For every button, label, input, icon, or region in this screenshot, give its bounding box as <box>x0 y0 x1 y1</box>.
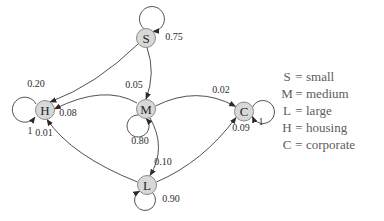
legend-item-medium: M = medium <box>281 86 348 101</box>
edge-L-to-H <box>47 120 138 183</box>
node-M-label: M <box>140 102 152 117</box>
legend-meaning-medium: medium <box>306 86 349 101</box>
figure-canvas: 0.75 0.05 0.20 0.80 0.08 0.02 0.10 0.90 … <box>0 0 384 221</box>
edge-S-to-M <box>146 48 151 100</box>
legend-equals-sign: = <box>295 137 302 152</box>
probability-S-to-M: 0.05 <box>125 79 143 90</box>
probability-S-to-H: 0.20 <box>27 78 45 89</box>
edge-M-to-C <box>156 96 236 107</box>
legend-item-housing: H = housing <box>282 120 347 135</box>
state-transition-diagram: 0.75 0.05 0.20 0.80 0.08 0.02 0.10 0.90 … <box>0 0 384 221</box>
edge-S-to-H <box>50 44 138 102</box>
edge-H-self-loop <box>12 97 36 122</box>
legend-equals-sign: = <box>295 69 302 84</box>
probability-C-to-C: 1 <box>259 116 264 127</box>
node-S-label: S <box>142 31 149 46</box>
legend-item-small: S = small <box>283 69 334 84</box>
node-C-label: C <box>240 104 249 119</box>
node-M: M <box>137 100 156 119</box>
legend-item-large: L = large <box>283 103 332 118</box>
probability-M-to-M: 0.80 <box>131 135 149 146</box>
node-L-label: L <box>143 178 151 193</box>
legend-equals-sign: = <box>295 86 302 101</box>
edge-S-self-loop <box>139 7 164 32</box>
probability-L-to-H: 0.01 <box>35 127 53 138</box>
probability-H-to-H: 1 <box>28 125 33 136</box>
legend-equals-sign: = <box>295 120 302 135</box>
legend-meaning-small: small <box>306 69 335 84</box>
legend: S = small M = medium L = large H = housi… <box>281 69 355 152</box>
legend-key-M: M <box>281 86 293 101</box>
probability-S-to-S: 0.75 <box>165 31 183 42</box>
probability-L-to-L: 0.90 <box>162 193 180 204</box>
node-H: H <box>36 101 55 120</box>
legend-meaning-housing: housing <box>306 120 348 135</box>
probability-M-to-H: 0.08 <box>59 107 77 118</box>
node-L: L <box>138 176 157 195</box>
node-S: S <box>137 29 156 48</box>
probability-L-to-C: 0.09 <box>232 122 250 133</box>
legend-equals-sign: = <box>295 103 302 118</box>
legend-item-corporate: C = corporate <box>283 137 356 152</box>
probability-M-to-C: 0.02 <box>212 84 230 95</box>
node-C: C <box>235 102 254 121</box>
probability-M-to-L: 0.10 <box>154 156 172 167</box>
legend-key-C: C <box>283 137 292 152</box>
node-H-label: H <box>40 103 49 118</box>
legend-meaning-large: large <box>306 103 332 118</box>
legend-key-H: H <box>282 120 291 135</box>
edge-L-to-C <box>157 118 237 183</box>
legend-meaning-corporate: corporate <box>306 137 355 152</box>
legend-key-S: S <box>283 69 290 84</box>
legend-key-L: L <box>283 103 291 118</box>
